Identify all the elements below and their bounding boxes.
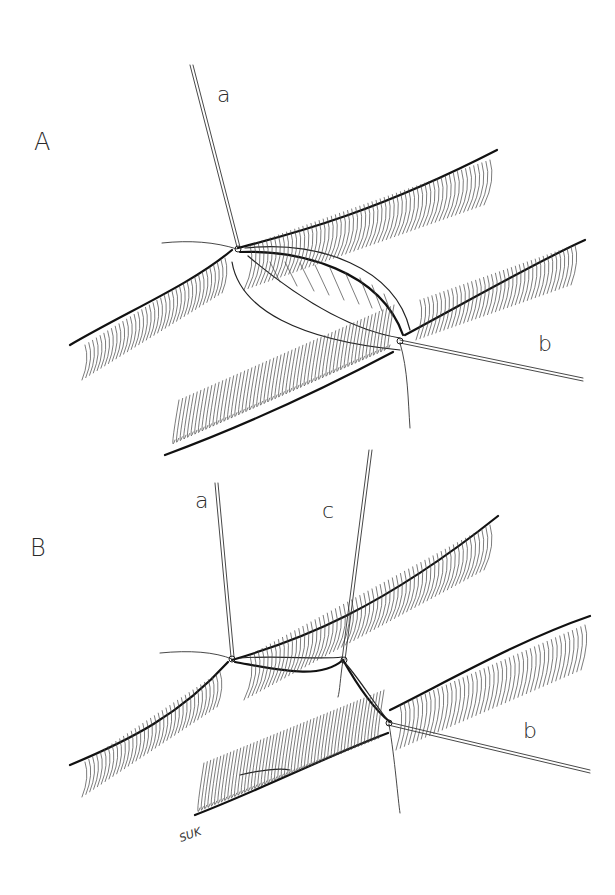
hatch-stroke — [333, 607, 341, 652]
hatch-stroke — [187, 394, 193, 438]
hatch-stroke — [384, 307, 390, 351]
hatch-stroke — [198, 389, 204, 433]
hatch-stroke — [315, 337, 321, 381]
vessel-hatching-b — [82, 525, 587, 812]
hatch-stroke — [82, 762, 87, 797]
hatch-stroke — [231, 374, 237, 418]
hatch-stroke — [350, 598, 358, 643]
hatch-stroke — [256, 648, 264, 693]
hatch-stroke — [480, 527, 488, 572]
hatch-stroke — [313, 618, 321, 663]
hatch-stroke — [382, 580, 390, 625]
hatch-stroke — [267, 358, 273, 402]
vessel-b — [70, 516, 590, 815]
panel-b: B a c b — [30, 450, 590, 845]
hatch-stroke — [325, 611, 333, 656]
hatch-stroke — [246, 368, 252, 412]
suture-label-c: c — [322, 498, 334, 523]
suture-b-thread — [397, 338, 583, 428]
hatch-stroke — [390, 576, 398, 621]
hatch-stroke — [416, 300, 422, 340]
hatch-stroke — [264, 360, 270, 404]
panel-label-a: A — [34, 128, 50, 156]
hatch-stroke — [216, 381, 222, 425]
hatch-stroke — [176, 398, 182, 442]
vessel-hatching-a — [82, 160, 577, 444]
hatch-stroke — [308, 340, 314, 384]
hatch-stroke — [184, 395, 190, 439]
hatch-stroke — [235, 373, 241, 417]
hatch-stroke — [378, 582, 386, 627]
hatch-stroke — [220, 379, 226, 423]
hatch-stroke — [180, 397, 186, 441]
hatch-stroke — [82, 345, 87, 380]
artist-signature: SUK — [178, 825, 204, 845]
hatch-stroke — [275, 355, 281, 399]
hatch-stroke — [300, 344, 306, 388]
hatch-stroke — [238, 371, 244, 415]
hatch-stroke — [244, 655, 252, 700]
hatch-stroke — [329, 331, 335, 375]
hatch-stroke — [297, 345, 303, 389]
hatch-stroke — [282, 352, 288, 396]
panel-label-b: B — [30, 534, 46, 562]
hatch-stroke — [472, 532, 480, 577]
suture-b-thread-b — [386, 720, 590, 813]
hatch-stroke — [173, 400, 179, 444]
hatch-stroke — [484, 525, 492, 570]
hatch-stroke — [407, 567, 415, 612]
hatch-stroke — [317, 615, 325, 660]
hatch-stroke — [311, 339, 317, 383]
hatch-stroke — [337, 328, 343, 372]
hatch-stroke — [322, 334, 328, 378]
hatch-stroke — [249, 366, 255, 410]
hatch-stroke — [213, 382, 219, 426]
hatch-stroke — [380, 308, 386, 352]
hatch-stroke — [206, 386, 212, 430]
hatch-stroke — [304, 342, 310, 386]
suture-label-a-b: a — [195, 488, 208, 513]
hatch-stroke — [370, 587, 378, 632]
hatch-stroke — [340, 326, 346, 370]
hatch-stroke — [395, 573, 403, 618]
hatch-stroke — [321, 613, 329, 658]
hatch-stroke — [326, 332, 332, 376]
hatch-stroke — [297, 626, 305, 671]
lumen-hatching — [270, 262, 392, 316]
hatch-stroke — [362, 316, 368, 360]
hatch-stroke — [260, 361, 266, 405]
hatch-stroke — [344, 324, 350, 368]
hatch-stroke — [257, 363, 263, 407]
hatch-stroke — [329, 609, 337, 654]
hatch-stroke — [366, 315, 372, 359]
suture-label-b: b — [538, 331, 552, 356]
hatch-stroke — [484, 160, 492, 205]
hatch-stroke — [415, 562, 423, 607]
hatch-stroke — [242, 369, 248, 413]
hatch-stroke — [333, 329, 339, 373]
hatch-stroke — [301, 624, 309, 669]
hatch-stroke — [423, 558, 431, 603]
hatch-stroke — [209, 384, 215, 428]
hatch-stroke — [293, 347, 299, 391]
hatch-stroke — [366, 589, 374, 634]
hatch-stroke — [354, 596, 362, 641]
hatch-stroke — [403, 569, 411, 614]
hatch-stroke — [319, 336, 325, 380]
hatch-stroke — [195, 390, 201, 434]
hatch-stroke — [271, 357, 277, 401]
hatch-stroke — [227, 376, 233, 420]
hatch-stroke — [359, 318, 365, 362]
hatch-stroke — [370, 313, 376, 357]
hatch-stroke — [191, 392, 197, 436]
suture-label-a: a — [217, 82, 230, 107]
hatch-stroke — [202, 387, 208, 431]
hatch-stroke — [248, 653, 256, 698]
hatch-stroke — [293, 629, 301, 674]
hatch-stroke — [399, 571, 407, 616]
surgical-illustration: A a b — [0, 0, 615, 895]
suture-c-thread — [338, 450, 372, 697]
hatch-stroke — [286, 350, 292, 394]
hatch-stroke — [419, 560, 427, 605]
vessel-a — [70, 150, 585, 455]
